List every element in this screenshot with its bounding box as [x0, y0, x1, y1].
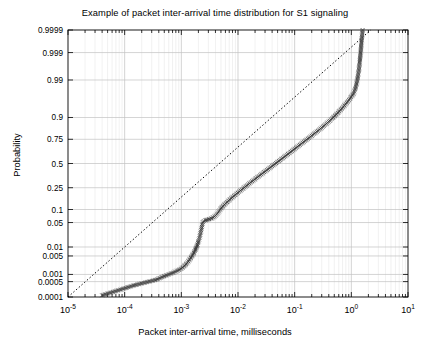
x-tick-label: 10-3 [173, 305, 189, 315]
x-tick-exponent: -5 [70, 303, 76, 310]
x-tick-base: 10 [60, 305, 70, 315]
y-tick-label: 0.1 [0, 205, 63, 214]
x-tick-exponent: -1 [297, 303, 303, 310]
x-tick-base: 10 [287, 305, 297, 315]
x-tick-base: 10 [230, 305, 240, 315]
x-tick-label: 10-4 [117, 305, 133, 315]
x-axis-title: Packet inter-arrival time, milliseconds [0, 327, 430, 337]
figure: Example of packet inter-arrival time dis… [0, 0, 430, 349]
y-tick-label: 0.25 [0, 183, 63, 192]
x-tick-exponent: -2 [240, 303, 246, 310]
x-tick-label: 100 [344, 305, 358, 315]
x-tick-label: 101 [401, 305, 415, 315]
x-tick-label: 10-2 [230, 305, 246, 315]
y-tick-label: 0.005 [0, 251, 63, 260]
x-tick-exponent: 1 [411, 303, 415, 310]
y-tick-label: 0.01 [0, 243, 63, 252]
y-tick-label: 0.99 [0, 75, 63, 84]
y-tick-label: 0.75 [0, 135, 63, 144]
x-tick-exponent: -3 [183, 303, 189, 310]
y-tick-label: 0.9999 [0, 26, 63, 35]
x-tick-label: 10-5 [60, 305, 76, 315]
x-tick-base: 10 [173, 305, 183, 315]
x-tick-base: 10 [401, 305, 411, 315]
x-tick-base: 10 [117, 305, 127, 315]
y-tick-label: 0.05 [0, 218, 63, 227]
y-tick-label: 0.9 [0, 113, 63, 122]
x-tick-exponent: 0 [355, 303, 359, 310]
y-tick-label: 0.001 [0, 270, 63, 279]
y-tick-label: 0.5 [0, 159, 63, 168]
x-tick-label: 10-1 [287, 305, 303, 315]
y-axis-title: Probability [12, 105, 22, 205]
plot-canvas [0, 0, 430, 349]
y-tick-label: 0.0001 [0, 293, 63, 302]
x-tick-base: 10 [344, 305, 354, 315]
y-tick-label: 0.999 [0, 48, 63, 57]
x-tick-exponent: -4 [127, 303, 133, 310]
